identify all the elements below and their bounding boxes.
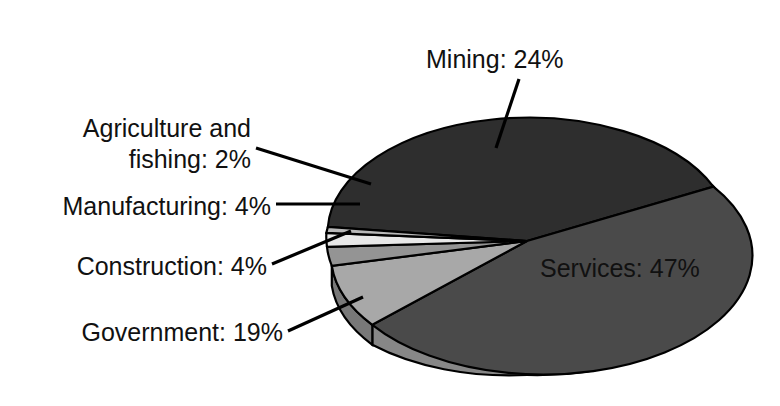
pie-chart-canvas: Mining: 24% Agriculture and fishing: 2% … bbox=[0, 0, 780, 406]
pie-top-surface bbox=[326, 118, 752, 375]
label-mining: Mining: 24% bbox=[426, 45, 564, 73]
label-agriculture-line1: Agriculture and bbox=[83, 114, 251, 142]
label-construction: Construction: 4% bbox=[77, 252, 267, 280]
pie-chart-figure: Mining: 24% Agriculture and fishing: 2% … bbox=[0, 0, 780, 406]
label-manufacturing: Manufacturing: 4% bbox=[63, 192, 271, 220]
label-agriculture-line2: fishing: 2% bbox=[129, 145, 251, 173]
leader-line-agriculture bbox=[256, 148, 371, 184]
label-services: Services: 47% bbox=[540, 254, 700, 282]
label-government: Government: 19% bbox=[82, 318, 284, 346]
